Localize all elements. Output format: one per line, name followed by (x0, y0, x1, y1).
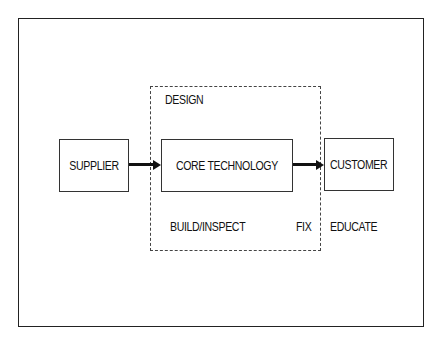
design-label: DESIGN (165, 93, 203, 107)
arrow-supplier-to-core-line (129, 163, 154, 166)
core-technology-label: CORE TECHNOLOGY (176, 159, 278, 173)
fix-label: FIX (296, 220, 311, 234)
customer-label: CUSTOMER (330, 158, 387, 172)
arrow-core-to-customer-line (293, 163, 317, 166)
supplier-label: SUPPLIER (69, 159, 118, 173)
arrow-core-to-customer-head-icon (316, 160, 324, 170)
build-inspect-label: BUILD/INSPECT (170, 220, 245, 234)
supplier-node: SUPPLIER (59, 139, 129, 192)
customer-node: CUSTOMER (324, 138, 394, 191)
educate-label: EDUCATE (330, 220, 377, 234)
core-technology-node: CORE TECHNOLOGY (161, 139, 293, 192)
arrow-supplier-to-core-head-icon (153, 160, 161, 170)
